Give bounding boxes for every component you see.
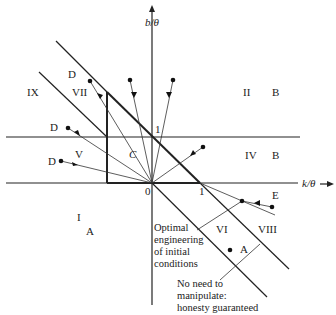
arrow-icon [97,93,103,99]
start-dot [270,205,275,210]
start-dot [59,159,64,164]
arrow-icon [166,92,172,98]
svg-text:honesty guaranteed: honesty guaranteed [177,302,259,313]
x-axis-arrow-icon [327,181,334,187]
outcome-label-e: E [272,189,279,201]
svg-text:of initial: of initial [154,246,190,257]
svg-text:manipulate:: manipulate: [177,290,227,301]
end-dot [240,199,245,204]
region-label-viii: VIII [258,223,277,235]
start-dot [66,126,71,131]
arrow-icon [74,130,80,136]
region-label-vii: VII [72,86,88,98]
outcome-label-b-mid: B [272,149,279,161]
arrow-icon [131,92,137,98]
start-dot [171,78,176,83]
svg-text:engineering: engineering [154,234,204,245]
diagonal-outer-upper [56,41,107,92]
manipulation-regions-diagram: b/θ k/θ 0 1 1 IX D VII II B D [0,0,336,315]
start-dot [228,248,233,253]
optimal-engineering-note: Optimal engineering of initial condition… [154,222,204,269]
region-label-vi: VI [216,223,228,235]
svg-text:No need to: No need to [177,278,223,289]
start-dot [201,145,206,150]
region-label-i: I [77,211,81,223]
region-label-v: V [75,148,83,160]
outcome-label-d-vii: D [68,68,76,80]
region-label-c: C [129,148,137,160]
region-label-ix: IX [27,86,39,98]
svg-text:Optimal: Optimal [154,222,188,233]
y-axis-label: b/θ [145,16,160,28]
outcome-label-a-right: A [240,243,248,255]
ray-e-boundary [200,183,275,215]
region-label-ii: II [243,86,251,98]
start-dot [128,78,133,83]
y-tick-one: 1 [155,123,161,135]
outcome-label-d-v: D [48,155,56,167]
start-dot [88,79,93,84]
x-axis-label: k/θ [302,177,316,189]
region-label-iv: IV [245,149,257,161]
y-axis-arrow-icon [149,5,155,12]
arrow-icon [190,150,196,156]
arrow-icon [254,200,260,206]
origin-label: 0 [145,185,151,197]
svg-text:conditions: conditions [154,258,198,269]
outcome-label-a-left: A [86,225,94,237]
x-tick-one: 1 [199,185,205,197]
outcome-label-d-mid: D [50,121,58,133]
honesty-guaranteed-note: No need to manipulate: honesty guarantee… [177,278,259,313]
outcome-label-b-top: B [272,86,279,98]
arrow-icon [72,162,78,166]
